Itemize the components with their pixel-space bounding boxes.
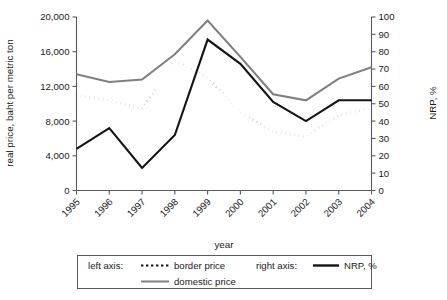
y-axis-left-title: real price, baht per metric ton [4, 39, 15, 166]
chart-figure: 04,0008,00012,00016,00020,000 real price… [0, 0, 447, 300]
y-right-tick-label: 80 [379, 46, 390, 57]
y-left-tick-label: 8,000 [45, 116, 69, 127]
y-right-tick-label: 0 [379, 185, 384, 196]
x-tick-label: 1997 [125, 196, 148, 219]
legend-entry-domestic-price: domestic price [174, 276, 236, 287]
x-axis: 1995199619971998199920002001200220032004… [59, 191, 377, 251]
x-axis-title: year [214, 239, 234, 250]
series-line-domestic-price [77, 20, 372, 100]
y-right-tick-label: 50 [379, 98, 390, 109]
legend-right-axis-label: right axis: [256, 260, 297, 271]
series-line-border-price [77, 60, 372, 136]
y-right-tick-label: 40 [379, 116, 390, 127]
y-axis-right: 0102030405060708090100 NRP, % [372, 11, 439, 196]
y-axis-right-title: NRP, % [427, 86, 438, 120]
y-right-tick-label: 100 [379, 11, 395, 22]
y-axis-right-ticks: 0102030405060708090100 [372, 11, 395, 196]
y-right-tick-label: 90 [379, 29, 390, 40]
x-axis-tick-labels: 1995199619971998199920002001200220032004 [59, 196, 377, 219]
y-right-tick-label: 70 [379, 63, 390, 74]
x-tick-label: 1996 [92, 196, 115, 219]
x-tick-label: 2002 [288, 196, 311, 219]
legend: left axis: border price domestic price r… [78, 256, 378, 289]
y-right-tick-label: 10 [379, 168, 390, 179]
legend-left-axis-label: left axis: [88, 260, 123, 271]
y-left-tick-label: 12,000 [40, 81, 69, 92]
y-left-tick-label: 4,000 [45, 150, 69, 161]
x-tick-label: 2001 [256, 196, 279, 219]
legend-entry-border-price: border price [174, 260, 225, 271]
x-axis-ticks [77, 191, 372, 195]
y-right-tick-label: 30 [379, 133, 390, 144]
x-tick-label: 2000 [223, 196, 246, 219]
series-layer [77, 20, 372, 167]
x-tick-label: 1998 [157, 196, 180, 219]
dual-axis-line-chart: 04,0008,00012,00016,00020,000 real price… [0, 0, 447, 300]
y-right-tick-label: 60 [379, 81, 390, 92]
y-left-tick-label: 20,000 [40, 11, 69, 22]
y-right-tick-label: 20 [379, 150, 390, 161]
x-tick-label: 2003 [321, 196, 344, 219]
x-tick-label: 2004 [354, 196, 377, 219]
y-axis-left: 04,0008,00012,00016,00020,000 real price… [4, 11, 77, 196]
x-tick-label: 1995 [59, 196, 82, 219]
legend-entry-nrp: NRP, % [344, 260, 377, 271]
y-axis-left-ticks: 04,0008,00012,00016,00020,000 [40, 11, 76, 196]
series-line-nrp [77, 40, 372, 168]
y-left-tick-label: 16,000 [40, 46, 69, 57]
y-left-tick-label: 0 [64, 185, 69, 196]
x-tick-label: 1999 [190, 196, 213, 219]
